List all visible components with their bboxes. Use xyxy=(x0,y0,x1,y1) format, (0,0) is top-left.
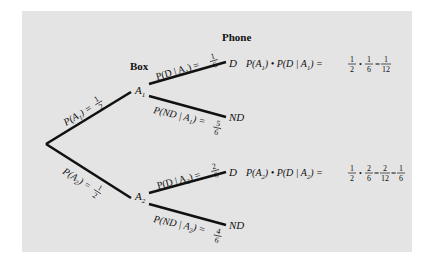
svg-text:12: 12 xyxy=(381,174,389,183)
svg-text:6: 6 xyxy=(399,174,403,183)
svg-text:6: 6 xyxy=(214,235,220,245)
svg-text:2: 2 xyxy=(97,102,105,112)
edge-root-a2 xyxy=(46,144,131,198)
svg-text:P(A2) =: P(A2) = xyxy=(59,165,93,193)
svg-text:P(A2) • P(D | A2) =: P(A2) • P(D | A2) = xyxy=(245,167,323,180)
label-p-nd-a1: P(ND | A1) = 5 6 xyxy=(150,104,223,138)
node-a2-nd: ND xyxy=(228,219,244,231)
svg-text:2: 2 xyxy=(350,174,354,183)
svg-text:6: 6 xyxy=(367,65,371,74)
product-a2-d: P(A2) • P(D | A2) = 1 2 • 2 6 = 2 12 = 1… xyxy=(245,164,405,183)
svg-text:•: • xyxy=(359,60,362,69)
svg-text:•: • xyxy=(359,169,362,178)
svg-text:6: 6 xyxy=(213,127,219,137)
svg-text:P(ND | A1) =: P(ND | A1) = xyxy=(151,104,206,128)
svg-text:=: = xyxy=(375,59,380,69)
svg-text:2: 2 xyxy=(91,191,99,201)
probability-tree: Box Phone A1 A2 D ND D ND P(A1) = 1 2 P(… xyxy=(0,0,427,260)
svg-text:P(D | A2) =: P(D | A2) = xyxy=(156,169,203,193)
svg-text:1: 1 xyxy=(384,55,388,64)
product-a1-d: P(A1) • P(D | A1) = 1 2 • 1 6 = 1 12 xyxy=(245,55,391,74)
svg-text:=: = xyxy=(374,168,379,178)
node-a2: A2 xyxy=(134,190,146,205)
node-a2-d: D xyxy=(228,166,237,178)
node-a1-d: D xyxy=(228,57,237,69)
edge-root-a1 xyxy=(46,92,131,144)
label-p-nd-a2: P(ND | A2) = 4 6 xyxy=(150,213,223,245)
svg-text:P(A1) • P(D | A1) =: P(A1) • P(D | A1) = xyxy=(245,58,323,71)
box-header: Box xyxy=(130,60,149,72)
node-a1-nd: ND xyxy=(228,111,244,123)
svg-text:12: 12 xyxy=(382,65,390,74)
svg-text:1: 1 xyxy=(350,55,354,64)
svg-text:=: = xyxy=(391,168,396,178)
phone-header: Phone xyxy=(222,31,251,43)
node-a1: A1 xyxy=(134,84,145,99)
svg-text:6: 6 xyxy=(367,174,371,183)
svg-text:P(D | A1) =: P(D | A1) = xyxy=(155,59,202,83)
svg-text:1: 1 xyxy=(399,164,403,173)
svg-text:1: 1 xyxy=(350,164,354,173)
svg-text:2: 2 xyxy=(383,164,387,173)
svg-text:2: 2 xyxy=(367,164,371,173)
svg-text:1: 1 xyxy=(367,55,371,64)
svg-text:2: 2 xyxy=(350,65,354,74)
